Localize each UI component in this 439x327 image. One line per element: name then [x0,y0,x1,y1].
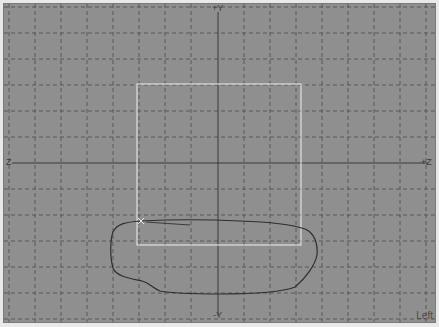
left-viewport[interactable]: +Y -Y Z +Z Left [4,4,435,322]
viewport-name-label[interactable]: Left [416,311,433,321]
axis-label-plus-y: +Y [212,4,223,13]
world-axes [12,12,428,316]
axis-label-plus-z: +Z [421,158,432,167]
sketch-tail [146,222,190,225]
sketch-curve [111,220,317,294]
axis-label-minus-y: -Y [213,311,222,320]
viewport-canvas[interactable] [4,4,435,322]
selection-rectangle [137,84,301,245]
axis-label-z: Z [6,158,12,167]
